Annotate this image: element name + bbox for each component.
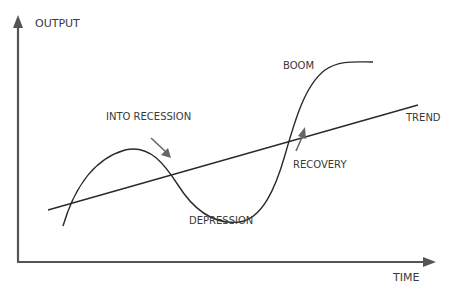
x-axis	[17, 257, 436, 267]
recovery-label: RECOVERY	[293, 159, 347, 170]
trend-line	[48, 105, 418, 210]
y-axis-arrowhead-icon	[13, 15, 23, 28]
y-axis-label: OUTPUT	[35, 17, 80, 30]
y-axis	[13, 15, 23, 262]
depression-label: DEPRESSION	[189, 215, 253, 226]
trend-label: TREND	[406, 112, 441, 123]
x-axis-label: TIME	[393, 271, 419, 284]
into-recession-label: INTO RECESSION	[106, 111, 191, 122]
boom-label: BOOM	[283, 60, 314, 71]
business-cycle-diagram	[0, 0, 455, 294]
x-axis-arrowhead-icon	[423, 257, 436, 267]
business-cycle-curve	[63, 62, 373, 226]
into-recession-arrow	[151, 138, 171, 158]
arrow-head-icon	[298, 127, 306, 139]
